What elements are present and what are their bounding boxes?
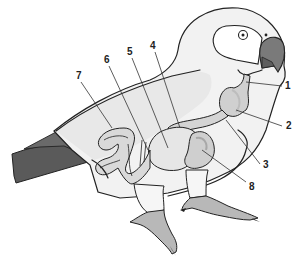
label-8: 8 xyxy=(249,182,255,192)
beak xyxy=(260,37,285,72)
leg-right xyxy=(180,170,260,222)
label-5: 5 xyxy=(127,47,133,57)
label-6: 6 xyxy=(104,55,110,65)
label-2: 2 xyxy=(286,121,292,131)
label-4: 4 xyxy=(150,41,156,51)
label-3: 3 xyxy=(263,160,269,170)
leg-left xyxy=(130,184,177,256)
nostril xyxy=(265,34,268,37)
label-1: 1 xyxy=(285,81,291,91)
label-7: 7 xyxy=(76,71,82,81)
